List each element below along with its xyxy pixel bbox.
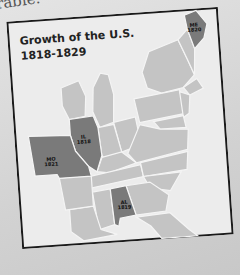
- label-maine: ME 1820: [187, 22, 202, 33]
- label-year: 1819: [117, 204, 131, 210]
- label-year: 1820: [187, 27, 201, 33]
- label-missouri: MO 1821: [44, 156, 59, 167]
- label-year: 1818: [77, 139, 91, 145]
- label-illinois: IL 1818: [76, 134, 91, 145]
- label-year: 1821: [44, 161, 58, 167]
- label-alabama: AL 1819: [117, 199, 132, 210]
- arkansas: [59, 174, 93, 210]
- growth-map: Growth of the U.S. 1818-1829 ME 1820 IL …: [6, 7, 233, 249]
